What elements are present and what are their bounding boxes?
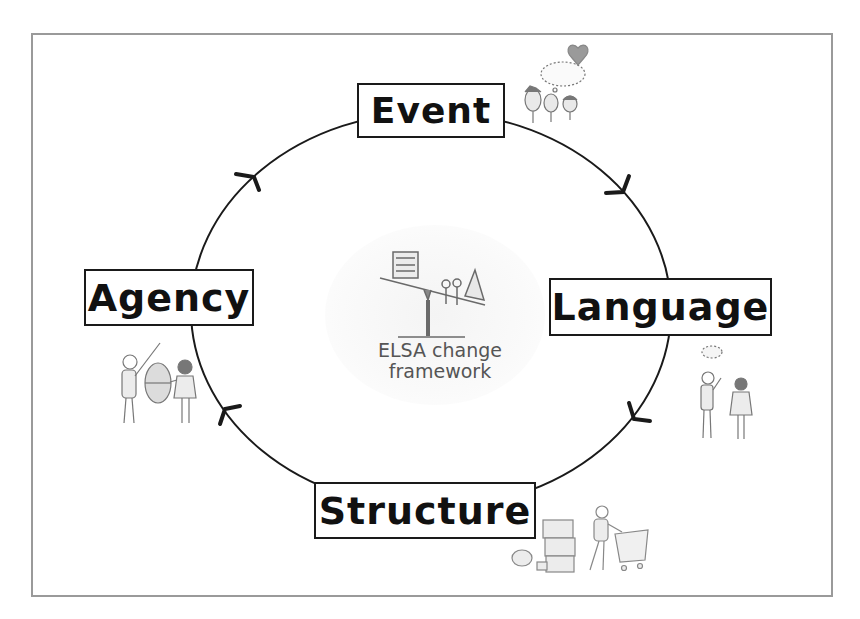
center-title-line1: ELSA change: [345, 340, 535, 361]
seesaw-illustration-icon: [380, 252, 485, 337]
node-language-label: Language: [552, 285, 770, 329]
node-event: Event: [357, 83, 505, 138]
three-faces-thinking-heart-icon: [525, 45, 588, 123]
arrow-language-to-structure-icon: [629, 403, 650, 421]
node-agency: Agency: [84, 269, 254, 326]
two-people-talking-icon: [701, 346, 752, 439]
node-structure-label: Structure: [319, 489, 532, 533]
arrow-structure-to-agency-icon: [220, 406, 240, 424]
center-title-line2: framework: [345, 361, 535, 382]
node-language: Language: [549, 278, 772, 336]
center-title: ELSA change framework: [345, 340, 535, 382]
node-event-label: Event: [371, 90, 491, 131]
node-structure: Structure: [314, 482, 536, 539]
two-people-lifting-object-icon: [122, 343, 196, 423]
node-agency-label: Agency: [88, 276, 251, 320]
